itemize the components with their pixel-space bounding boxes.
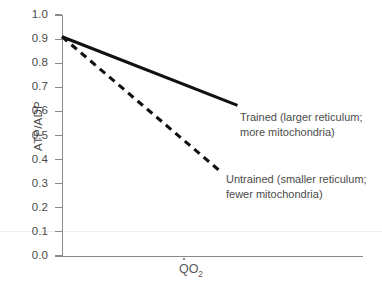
data-lines-layer <box>0 0 382 285</box>
annotation-untrained: Untrained (smaller reticulum; fewer mito… <box>226 172 367 202</box>
series-line-trained <box>62 37 237 106</box>
chart-figure: 0.00.10.20.30.40.50.60.70.80.91.0 ATP/AD… <box>0 0 382 285</box>
annotation-untrained-line1: Untrained (smaller reticulum; <box>226 172 367 187</box>
annotation-trained-line1: Trained (larger reticulum; <box>240 110 362 125</box>
annotation-untrained-line2: fewer mitochondria) <box>226 187 367 202</box>
series-line-untrained <box>62 37 222 173</box>
annotation-trained: Trained (larger reticulum; more mitochon… <box>240 110 362 140</box>
annotation-trained-line2: more mitochondria) <box>240 125 362 140</box>
